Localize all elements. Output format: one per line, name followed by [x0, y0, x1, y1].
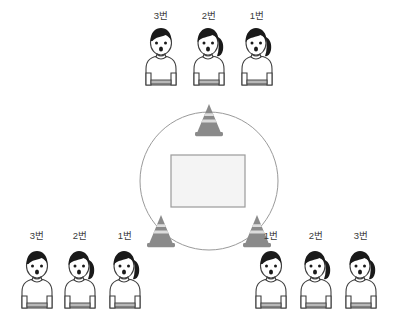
person-bl-0 — [14, 248, 60, 310]
person-top-0 — [138, 25, 184, 87]
diagram-canvas: 3번 2번 1번 — [0, 0, 411, 331]
cone-top — [194, 103, 224, 137]
person-bl-2 — [102, 248, 148, 310]
label-br-2: 3번 — [341, 230, 381, 241]
person-br-0 — [248, 248, 294, 310]
person-bl-1 — [57, 248, 103, 310]
label-bl-2: 1번 — [105, 230, 145, 241]
cone-bottom-left — [146, 214, 176, 248]
label-bl-0: 3번 — [17, 230, 57, 241]
person-br-2 — [338, 248, 384, 310]
label-br-1: 2번 — [296, 230, 336, 241]
label-bl-1: 2번 — [60, 230, 100, 241]
label-top-0: 3번 — [141, 10, 181, 21]
label-top-1: 2번 — [189, 10, 229, 21]
center-box — [171, 155, 245, 207]
person-top-1 — [186, 25, 232, 87]
person-br-1 — [293, 248, 339, 310]
label-br-0: 1번 — [251, 230, 291, 241]
label-top-2: 1번 — [237, 10, 277, 21]
person-top-2 — [234, 25, 280, 87]
